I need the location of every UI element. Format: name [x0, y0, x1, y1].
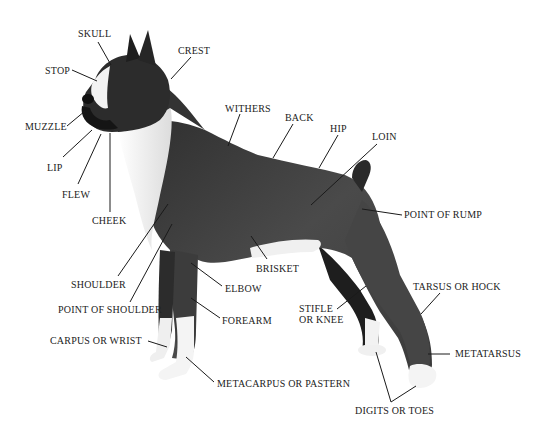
- leader-line-point-of-shoulder: [130, 224, 172, 302]
- label-tarsus-or-hock: TARSUS OR HOCK: [413, 281, 501, 292]
- label-lip: LIP: [47, 162, 63, 173]
- leader-line-muzzle: [67, 111, 85, 126]
- label-hip: HIP: [330, 123, 347, 134]
- leader-line-flew: [78, 134, 101, 184]
- label-shoulder: SHOULDER: [71, 279, 126, 290]
- leader-line-tarsus-or-hock: [421, 293, 440, 314]
- label-metatarsus: METATARSUS: [455, 348, 521, 359]
- label-muzzle: MUZZLE: [25, 121, 67, 132]
- label-loin: LOIN: [372, 131, 397, 142]
- label-forearm: FOREARM: [222, 315, 272, 326]
- boxer-anatomy-diagram: SKULLCRESTSTOPWITHERSBACKHIPLOINMUZZLELI…: [0, 0, 552, 440]
- leader-line-back: [273, 124, 293, 158]
- label-carpus-or-wrist: CARPUS OR WRIST: [50, 335, 142, 346]
- leader-line-carpus-or-wrist: [148, 341, 167, 347]
- label-skull: SKULL: [78, 28, 111, 39]
- label-crest: CREST: [178, 45, 210, 56]
- leader-line-stop: [72, 70, 97, 81]
- label-cheek: CHEEK: [92, 215, 126, 226]
- label-flew: FLEW: [62, 189, 90, 200]
- leader-line-skull: [98, 42, 111, 65]
- leader-line-forearm: [191, 298, 220, 318]
- label-stifle-or-knee: STIFLE OR KNEE: [299, 303, 343, 325]
- label-withers: WITHERS: [225, 103, 271, 114]
- label-metacarpus-or-pastern: METACARPUS OR PASTERN: [217, 378, 350, 389]
- leader-line-loin: [311, 144, 377, 205]
- leader-line-withers: [228, 114, 240, 146]
- label-digits-or-toes: DIGITS OR TOES: [355, 405, 434, 416]
- leader-line-elbow: [191, 263, 222, 286]
- leader-line-lip: [63, 130, 92, 157]
- leader-line-digits-or-toes-a: [376, 352, 391, 402]
- label-back: BACK: [285, 112, 314, 123]
- label-elbow: ELBOW: [225, 283, 262, 294]
- leader-line-hip: [319, 135, 338, 168]
- leader-line-point-of-rump: [362, 209, 402, 215]
- leader-line-digits-or-toes-b: [391, 386, 416, 402]
- label-brisket: BRISKET: [256, 263, 299, 274]
- label-point-of-rump: POINT OF RUMP: [404, 209, 482, 220]
- leader-line-crest: [171, 57, 191, 79]
- leader-lines: [0, 0, 552, 440]
- leader-line-metacarpus-or-pastern: [186, 357, 214, 382]
- label-stop: STOP: [45, 65, 70, 76]
- label-point-of-shoulder: POINT OF SHOULDER: [58, 304, 162, 315]
- leader-line-brisket: [251, 236, 267, 259]
